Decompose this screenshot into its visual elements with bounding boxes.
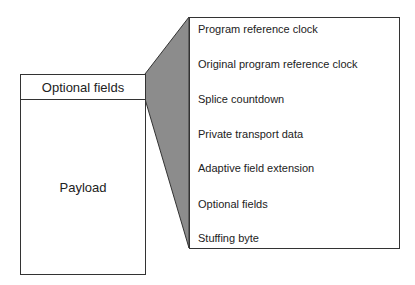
field-item: Optional fields [198,198,268,210]
expanded-fields-box: Program reference clock Original program… [189,17,400,249]
field-item: Splice countdown [198,93,284,105]
payload-section: Payload [21,100,145,274]
optional-fields-label: Optional fields [42,80,124,95]
field-item: Original program reference clock [198,58,358,70]
field-item: Program reference clock [198,23,318,35]
packet-box: Optional fields Payload [20,74,146,275]
field-item: Private transport data [198,128,303,140]
optional-fields-section: Optional fields [21,75,145,100]
field-item: Adaptive field extension [198,162,314,174]
payload-label: Payload [60,180,107,195]
field-item: Stuffing byte [198,232,259,244]
